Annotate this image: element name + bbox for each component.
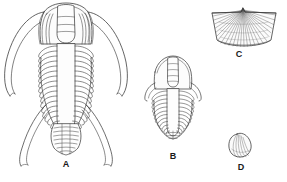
figure-b-glabella [168, 57, 179, 87]
figure-label-d: D [234, 163, 248, 172]
figure-a-glabella [57, 5, 75, 44]
figure-d-small-shell [229, 133, 251, 157]
figure-c-brachiopod [212, 8, 276, 46]
figure-a-axial-lobe [57, 44, 75, 134]
figure-label-a: A [59, 160, 73, 169]
figure-label-c: C [232, 50, 246, 59]
figure-b-axial-lobe [167, 89, 179, 136]
fossil-plate [0, 0, 287, 182]
figure-label-b: B [166, 152, 180, 161]
